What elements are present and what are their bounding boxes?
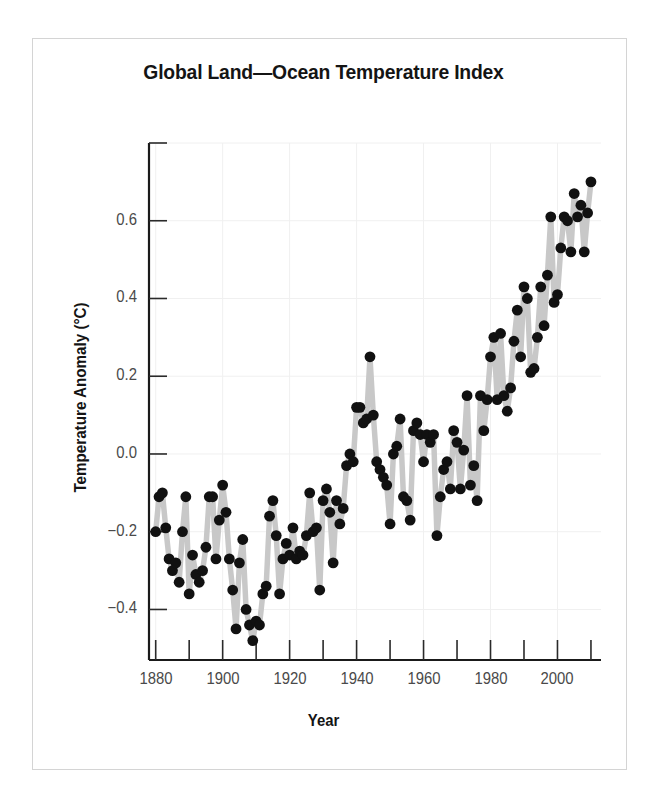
x-tick-label: 1940 xyxy=(319,670,393,688)
y-tick-label: −0.4 xyxy=(64,599,137,617)
x-tick-label: 1900 xyxy=(185,670,259,688)
chart-figure: Global Land—Ocean Temperature Index −0.4… xyxy=(0,0,647,801)
y-tick-label: −0.2 xyxy=(64,522,137,540)
x-tick-label: 1960 xyxy=(386,670,460,688)
data-series-points xyxy=(150,176,596,645)
x-tick-label: 1920 xyxy=(252,670,326,688)
y-axis-title: Temperature Anomaly (°C) xyxy=(72,302,90,492)
x-tick-label: 1880 xyxy=(118,670,192,688)
x-tick-label: 1980 xyxy=(453,670,527,688)
x-tick-label: 2000 xyxy=(520,670,594,688)
y-tick-label: 0.6 xyxy=(64,211,137,229)
x-axis-title: Year xyxy=(23,712,625,730)
